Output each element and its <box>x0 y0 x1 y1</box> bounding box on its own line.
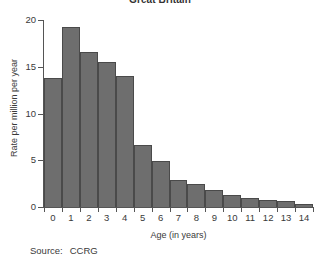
x-tick-10 <box>223 208 224 212</box>
bar-9 <box>205 190 223 207</box>
x-tick-11 <box>241 208 242 212</box>
x-tick-label-14: 14 <box>294 213 314 223</box>
bar-5 <box>134 145 152 207</box>
y-tick-15 <box>38 67 43 68</box>
bar-10 <box>223 195 241 207</box>
y-tick-label-15: 15 <box>10 62 36 72</box>
bar-1 <box>62 27 80 207</box>
x-tick-0 <box>44 208 45 212</box>
x-axis-line <box>43 207 314 208</box>
y-axis-tick-labels: 05101520 <box>0 0 36 268</box>
plot-area <box>44 20 313 207</box>
y-tick-20 <box>38 20 43 21</box>
x-tick-1 <box>62 208 63 212</box>
chart-title: Great Britain <box>0 0 320 5</box>
source-note: Source:CCRG <box>30 245 98 256</box>
bar-0 <box>44 78 62 207</box>
bar-4 <box>116 76 134 207</box>
x-tick-12 <box>259 208 260 212</box>
x-axis-title: Age (in years) <box>44 230 313 240</box>
y-tick-10 <box>38 114 43 115</box>
x-tick-5 <box>134 208 135 212</box>
x-tick-14 <box>295 208 296 212</box>
x-tick-2 <box>80 208 81 212</box>
bar-2 <box>80 52 98 207</box>
y-tick-label-10: 10 <box>10 109 36 119</box>
x-tick-15 <box>313 208 314 212</box>
x-tick-3 <box>98 208 99 212</box>
y-tick-label-20: 20 <box>10 15 36 25</box>
y-tick-label-5: 5 <box>10 155 36 165</box>
x-tick-8 <box>187 208 188 212</box>
chart-figure: Great Britain Rate per million per year … <box>0 0 320 268</box>
x-tick-6 <box>152 208 153 212</box>
x-tick-13 <box>277 208 278 212</box>
bar-6 <box>152 161 170 207</box>
source-value: CCRG <box>70 245 98 256</box>
bar-3 <box>98 62 116 207</box>
y-tick-label-0: 0 <box>10 202 36 212</box>
x-tick-9 <box>205 208 206 212</box>
y-tick-5 <box>38 160 43 161</box>
bar-8 <box>187 184 205 207</box>
x-tick-7 <box>170 208 171 212</box>
bar-11 <box>241 198 259 207</box>
source-label: Source: <box>30 245 63 256</box>
bar-7 <box>170 180 188 207</box>
x-tick-4 <box>116 208 117 212</box>
